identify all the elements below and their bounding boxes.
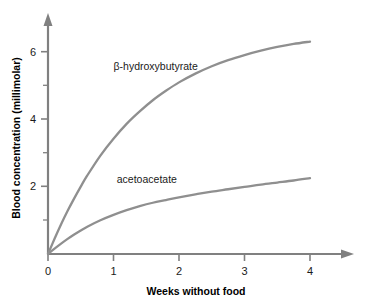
y-tick-label-2: 2 <box>30 180 36 192</box>
y-axis-title: Blood concentration (millimolar) <box>10 57 22 219</box>
y-axis-arrowhead <box>44 13 53 26</box>
series-label-beta-hydroxybutyrate: β-hydroxybutyrate <box>114 60 198 72</box>
x-tick-label-3: 3 <box>241 265 247 277</box>
series-line-beta-hydroxybutyrate <box>48 42 310 254</box>
x-axis-arrowhead <box>341 250 354 259</box>
x-tick-label-4: 4 <box>307 265 313 277</box>
chart-figure: 2 4 6 0 1 2 3 4 β-hydroxybutyrate acetoa… <box>0 0 373 301</box>
y-tick-label-6: 6 <box>30 46 36 58</box>
x-tick-label-2: 2 <box>176 265 182 277</box>
x-tick-label-1: 1 <box>110 265 116 277</box>
x-tick-label-0: 0 <box>45 265 51 277</box>
line-chart-canvas: 2 4 6 0 1 2 3 4 β-hydroxybutyrate acetoa… <box>0 0 373 301</box>
series-line-acetoacetate <box>48 178 310 254</box>
x-axis-title: Weeks without food <box>147 285 246 297</box>
series-label-acetoacetate: acetoacetate <box>117 173 177 185</box>
y-tick-label-4: 4 <box>30 113 36 125</box>
